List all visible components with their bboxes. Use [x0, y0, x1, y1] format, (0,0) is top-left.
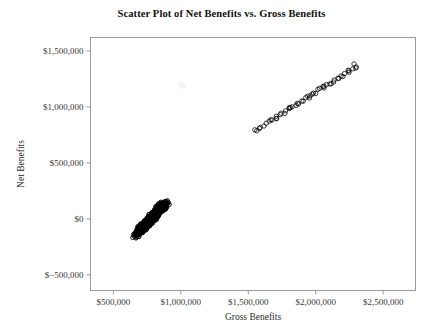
x-tick-label: $2,000,000	[295, 297, 336, 307]
x-axis-tick-labels: $500,000$1,000,000$1,500,000$2,000,000$2…	[97, 297, 404, 307]
y-axis-title: Net Benefits	[16, 140, 26, 188]
plot-frame	[91, 38, 416, 291]
y-tick-label: $−500,000	[45, 270, 84, 280]
y-tick-label: $500,000	[50, 158, 84, 168]
y-tick-label: $1,000,000	[43, 102, 84, 112]
x-tick-label: $500,000	[97, 297, 131, 307]
faint-artifact-mark	[179, 83, 184, 88]
y-axis-ticks	[87, 51, 91, 275]
scatter-plot-figure: Scatter Plot of Net Benefits vs. Gross B…	[0, 0, 443, 335]
data-points-high-cluster	[253, 62, 359, 133]
x-axis-ticks	[113, 291, 383, 295]
plot-canvas: $−500,000$0$500,000$1,000,000$1,500,000 …	[0, 0, 443, 335]
x-tick-label: $1,000,000	[161, 297, 202, 307]
y-axis-tick-labels: $−500,000$0$500,000$1,000,000$1,500,000	[43, 46, 84, 280]
data-points-low-cluster	[131, 199, 172, 240]
x-axis-title: Gross Benefits	[225, 312, 282, 322]
y-tick-label: $0	[75, 214, 85, 224]
y-tick-label: $1,500,000	[43, 46, 84, 56]
x-tick-label: $2,500,000	[363, 297, 404, 307]
x-tick-label: $1,500,000	[228, 297, 269, 307]
